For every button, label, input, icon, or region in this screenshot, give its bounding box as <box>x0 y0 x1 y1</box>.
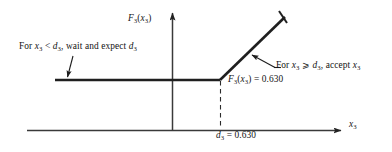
y-axis-label-close: ) <box>148 13 151 23</box>
right-annotation-label: For x3 ⩾ d3, accept x3 <box>276 61 360 71</box>
right-annotation-mid: , accept <box>321 60 353 70</box>
right-annotation-var2-sub: 3 <box>357 64 360 71</box>
x-axis-label: x3 <box>349 120 357 130</box>
figure-container: F3(x3) x3 For x3 < d3, wait and expect d… <box>0 0 392 152</box>
threshold-value-equals: = <box>224 130 234 140</box>
figure-graphics <box>0 0 392 152</box>
right-annotation-relation: ⩾ <box>300 60 313 70</box>
left-annotation-label: For x3 < d3, wait and expect d3 <box>19 42 137 52</box>
left-annotation-for: For <box>19 41 35 51</box>
x-axis-label-var-sub: 3 <box>353 123 356 130</box>
threshold-value-number: 0.630 <box>235 130 257 140</box>
left-annotation-leader-arrow <box>68 56 74 77</box>
function-value-label: F3(x3) = 0.630 <box>228 75 283 85</box>
function-value-equals: = <box>252 74 262 84</box>
left-annotation-d2-sub: 3 <box>134 45 137 52</box>
left-annotation-relation: < <box>43 41 53 51</box>
function-value-number: 0.630 <box>262 74 284 84</box>
left-annotation-mid: , wait and expect <box>61 41 129 51</box>
y-axis-label: F3(x3) <box>128 14 152 24</box>
threshold-value-label: d3 = 0.630 <box>216 131 256 141</box>
right-annotation-leader-arrow <box>252 55 275 68</box>
right-annotation-for: For <box>276 60 292 70</box>
